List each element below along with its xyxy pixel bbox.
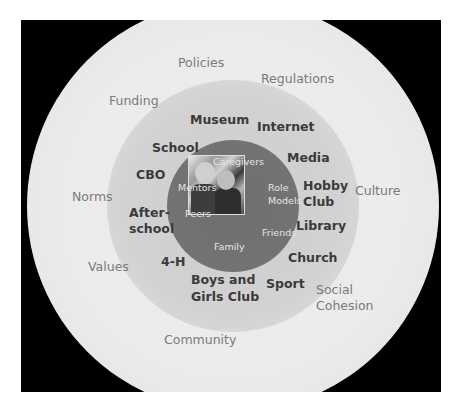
label-library: Library bbox=[296, 219, 346, 233]
label-community: Community bbox=[164, 333, 236, 347]
label-social: Social bbox=[316, 283, 353, 297]
label-cbo: CBO bbox=[136, 168, 165, 182]
label-funding: Funding bbox=[109, 94, 159, 108]
label-after: After- bbox=[129, 206, 170, 220]
label-4h: 4-H bbox=[161, 255, 185, 269]
label-school-2: school bbox=[129, 222, 174, 236]
label-internet: Internet bbox=[257, 120, 315, 134]
label-media: Media bbox=[287, 151, 330, 165]
label-regulations: Regulations bbox=[261, 72, 334, 86]
label-values: Values bbox=[88, 260, 129, 274]
photo-figure-body bbox=[215, 188, 241, 214]
photo-figure-head bbox=[217, 170, 235, 190]
label-family: Family bbox=[214, 242, 245, 252]
label-girls-club: Girls Club bbox=[191, 290, 259, 304]
label-policies: Policies bbox=[178, 56, 224, 70]
label-church: Church bbox=[288, 251, 337, 265]
label-friends: Friends bbox=[262, 228, 296, 238]
photo-figure-head bbox=[195, 162, 215, 184]
label-school: School bbox=[152, 141, 199, 155]
label-cohesion: Cohesion bbox=[316, 299, 374, 313]
label-norms: Norms bbox=[72, 190, 113, 204]
label-models: Models bbox=[268, 196, 301, 206]
label-sport: Sport bbox=[266, 277, 305, 291]
label-culture: Culture bbox=[355, 184, 401, 198]
label-boys-and: Boys and bbox=[191, 273, 255, 287]
label-mentors: Mentors bbox=[178, 183, 216, 193]
label-museum: Museum bbox=[190, 113, 249, 127]
label-hobby: Hobby bbox=[303, 179, 348, 193]
label-role: Role bbox=[268, 183, 288, 193]
label-peers: Peers bbox=[185, 209, 211, 219]
label-caregivers: Caregivers bbox=[213, 157, 264, 167]
label-club: Club bbox=[303, 195, 334, 209]
